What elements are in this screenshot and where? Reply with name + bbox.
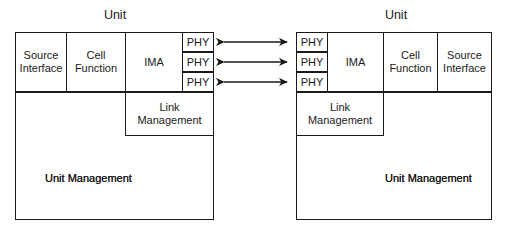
right-unit-title: Unit (356, 8, 436, 22)
left-cell-function-label-line2: Function (74, 62, 118, 75)
right-source-interface-label-line2: Interface (442, 62, 487, 75)
right-phy-block-1: PHY (296, 32, 328, 52)
right-phy-block-3: PHY (296, 72, 328, 92)
right-link-management-overlay-line1: Link (329, 101, 351, 114)
right-ima-block: IMA (327, 32, 384, 92)
left-source-interface-block: Source Interface (15, 32, 67, 92)
left-source-interface-label-line1: Source (23, 49, 60, 62)
left-ima-label: IMA (143, 56, 165, 69)
right-phy-block-2: PHY (296, 52, 328, 72)
left-link-management-block-overlay: Link Management (125, 92, 214, 136)
left-phy-block-3: PHY (182, 72, 214, 92)
left-source-interface-label-line2: Interface (19, 62, 64, 75)
left-ima-block: IMA (125, 32, 183, 92)
left-link-management-overlay-line1: Link (158, 101, 180, 114)
right-link-management-block-overlay: Link Management (296, 92, 384, 136)
left-phy-block-1: PHY (182, 32, 214, 52)
left-unit-management-label-top: Unit Management (45, 172, 125, 185)
left-cell-function-block: Cell Function (66, 32, 126, 92)
right-unit-management-top-line2: Management (408, 172, 472, 184)
left-phy-label-3: PHY (186, 76, 211, 89)
left-cell-function-label-line1: Cell (86, 49, 107, 62)
left-link-management-overlay-line2: Management (136, 114, 202, 127)
right-unit-management-label-top: Unit Management (385, 172, 465, 185)
right-unit-management-top-line1: Unit (385, 172, 405, 184)
left-unit-management-top-line1: Unit (45, 172, 65, 184)
left-phy-label-2: PHY (186, 56, 211, 69)
left-unit-management-top-line2: Management (68, 172, 132, 184)
right-source-interface-block: Source Interface (437, 32, 492, 92)
ima-block-diagram: Unit Unit Source Interface Cell Function… (0, 0, 509, 240)
right-link-management-overlay-line2: Management (307, 114, 373, 127)
right-phy-label-1: PHY (300, 36, 325, 49)
right-source-interface-label-line1: Source (446, 49, 483, 62)
left-phy-block-2: PHY (182, 52, 214, 72)
right-cell-function-label-line1: Cell (400, 49, 421, 62)
right-ima-label: IMA (345, 56, 367, 69)
right-phy-label-3: PHY (300, 76, 325, 89)
left-unit-title: Unit (75, 8, 155, 22)
right-phy-label-2: PHY (300, 56, 325, 69)
left-phy-label-1: PHY (186, 36, 211, 49)
right-cell-function-label-line2: Function (388, 62, 432, 75)
right-cell-function-block: Cell Function (383, 32, 438, 92)
